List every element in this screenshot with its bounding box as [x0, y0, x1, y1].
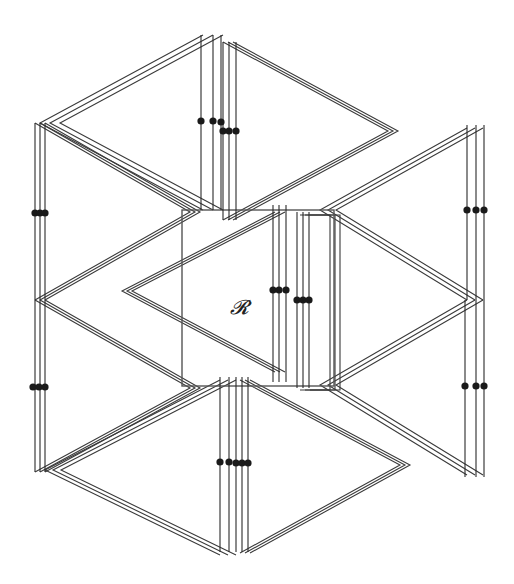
node-dot	[209, 117, 216, 124]
wedge-stroke	[61, 380, 236, 555]
top-right-wedge	[223, 42, 398, 220]
node-dot	[197, 117, 204, 124]
node-dot	[463, 206, 470, 213]
right-lower-wedge	[320, 300, 483, 475]
wedge-shapes	[35, 35, 483, 555]
wedge-stroke	[40, 300, 195, 472]
wedge-stroke	[45, 380, 220, 555]
node-dot	[480, 206, 487, 213]
wedge-stroke	[122, 212, 275, 372]
left-lower-wedge	[35, 300, 200, 472]
node-dot	[41, 383, 48, 390]
wedge-stroke	[35, 300, 190, 472]
bottom-left-wedge	[45, 380, 236, 555]
wedge-stroke	[336, 300, 483, 475]
right-upper-wedge	[320, 128, 483, 300]
node-dot	[225, 458, 232, 465]
wedge-stroke	[336, 128, 483, 300]
wedge-stroke	[223, 42, 388, 220]
node-dot	[244, 459, 251, 466]
left-upper-wedge	[35, 123, 200, 300]
center-wedge	[122, 212, 285, 372]
wedge-stroke	[45, 300, 200, 472]
wedge-stroke	[228, 42, 393, 220]
node-dot	[41, 209, 48, 216]
region-label-r: 𝓡	[230, 295, 252, 319]
diagram-canvas: 𝓡	[0, 0, 514, 584]
node-dot	[225, 127, 232, 134]
segment-dots	[29, 117, 487, 466]
node-dot	[216, 458, 223, 465]
node-dot	[282, 286, 289, 293]
node-dot	[472, 382, 479, 389]
node-dot	[480, 382, 487, 389]
node-dot	[305, 296, 312, 303]
node-dot	[232, 127, 239, 134]
wedge-stroke	[320, 300, 467, 475]
wedge-stroke	[40, 123, 195, 300]
wedge-stroke	[40, 35, 203, 210]
vertical-segments	[35, 35, 484, 552]
node-dot	[461, 382, 468, 389]
tiling-diagram: 𝓡	[0, 0, 514, 584]
wedge-stroke	[233, 42, 398, 220]
wedge-stroke	[250, 380, 410, 553]
wedge-stroke	[240, 380, 400, 553]
wedge-stroke	[328, 300, 475, 475]
node-dot	[472, 206, 479, 213]
wedge-stroke	[127, 212, 280, 372]
node-dot	[217, 118, 224, 125]
top-left-wedge	[40, 35, 223, 210]
wedge-stroke	[245, 380, 405, 553]
wedge-stroke	[53, 380, 228, 555]
node-dot	[275, 286, 282, 293]
wedge-stroke	[45, 123, 200, 300]
bottom-right-wedge	[240, 380, 410, 553]
wedge-stroke	[132, 212, 285, 372]
wedge-stroke	[50, 35, 213, 210]
